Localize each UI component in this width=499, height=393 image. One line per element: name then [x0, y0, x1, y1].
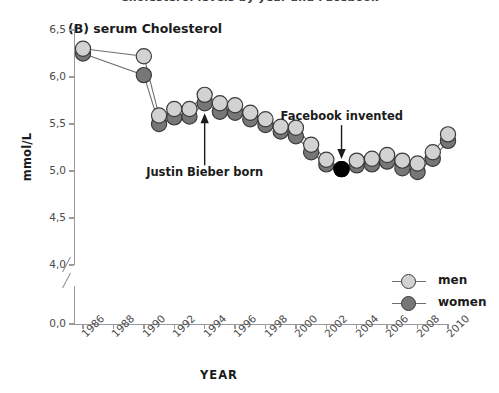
data-point-men-2001 [304, 137, 319, 152]
data-point-men-2003 [334, 162, 349, 177]
data-point-women-1990 [136, 68, 151, 83]
data-point-men-2010 [440, 127, 455, 142]
data-point-men-2006 [380, 147, 395, 162]
data-point-men-1997 [243, 105, 258, 120]
data-point-men-2008 [410, 156, 425, 171]
data-point-men-1995 [212, 96, 227, 111]
data-point-men-1986 [75, 41, 90, 56]
data-point-men-2004 [349, 153, 364, 168]
data-point-men-1994 [197, 87, 212, 102]
data-point-men-2002 [319, 152, 334, 167]
data-point-men-1993 [182, 101, 197, 116]
legend-label-women: women [438, 295, 487, 309]
annotation-arrow-head-facebook [337, 149, 345, 159]
data-point-men-1991 [151, 108, 166, 123]
data-point-men-1990 [136, 49, 151, 64]
legend-item-men[interactable]: men [392, 271, 492, 293]
plot-area [0, 0, 499, 393]
annotation-arrow-head-justin-bieber [200, 113, 208, 123]
data-point-men-2007 [395, 153, 410, 168]
data-point-men-2005 [364, 151, 379, 166]
legend-marker-men [401, 274, 416, 289]
legend-marker-women [401, 296, 416, 311]
annotation-justin-bieber-born: Justin Bieber born [146, 165, 263, 179]
data-point-men-1998 [258, 112, 273, 127]
data-point-men-1992 [167, 101, 182, 116]
legend-label-men: men [438, 273, 467, 287]
data-point-men-2009 [425, 145, 440, 160]
legend-item-women[interactable]: women [392, 293, 492, 315]
annotation-facebook-invented: Facebook invented [281, 109, 403, 123]
data-point-men-1996 [227, 98, 242, 113]
legend: men women [392, 271, 492, 315]
